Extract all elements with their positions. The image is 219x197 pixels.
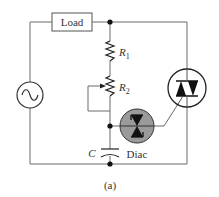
circuit-diagram: Load R1 R2 C Diac (a) xyxy=(0,0,219,197)
diac-icon xyxy=(120,109,154,143)
triac-icon xyxy=(168,69,206,107)
capacitor-icon xyxy=(101,149,119,157)
load-label: Load xyxy=(61,16,84,28)
r2-label: R2 xyxy=(118,81,130,96)
resistor-r2-icon xyxy=(106,76,114,96)
diac-label: Diac xyxy=(127,148,148,160)
figure-caption: (a) xyxy=(104,179,117,192)
ac-source-icon xyxy=(17,82,43,108)
r1-label: R1 xyxy=(118,46,130,61)
resistor-r1-icon xyxy=(106,41,114,61)
capacitor-label: C xyxy=(88,147,96,159)
